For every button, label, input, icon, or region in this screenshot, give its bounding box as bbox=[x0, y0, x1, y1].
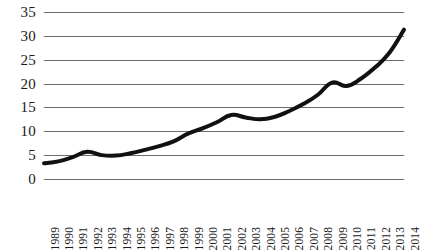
x-axis-tick-label: 2002 bbox=[237, 227, 249, 250]
x-axis-tick-label: 1998 bbox=[179, 227, 191, 250]
x-axis-tick-label: 2010 bbox=[352, 227, 364, 250]
x-axis-tick-label: 2011 bbox=[366, 227, 378, 250]
x-axis-tick-label: 2004 bbox=[266, 227, 278, 250]
y-axis-tick-label: 25 bbox=[0, 52, 36, 67]
x-axis-tick-label: 2012 bbox=[381, 227, 393, 250]
x-axis-baseline bbox=[44, 179, 404, 180]
y-axis-tick-label: 10 bbox=[0, 124, 36, 139]
x-axis-tick-label: 2006 bbox=[294, 227, 306, 250]
x-axis-tick-label: 1996 bbox=[150, 227, 162, 250]
x-axis-tick-label: 1994 bbox=[122, 227, 134, 250]
x-axis-tick-label: 2003 bbox=[251, 227, 263, 250]
x-axis-tick-label: 2007 bbox=[309, 227, 321, 250]
x-axis-tick-label: 2005 bbox=[280, 227, 292, 250]
x-axis-tick-label: 1993 bbox=[107, 227, 119, 250]
x-axis-tick-label: 2013 bbox=[395, 227, 407, 250]
x-axis-tick-label: 1991 bbox=[78, 227, 90, 250]
y-axis-tick-label: 5 bbox=[0, 148, 36, 163]
x-axis-tick-label: 2000 bbox=[208, 227, 220, 250]
x-axis-tick-label: 1989 bbox=[50, 227, 62, 250]
x-axis-tick-label: 1995 bbox=[136, 227, 148, 250]
x-axis-tick-label: 2014 bbox=[410, 227, 421, 250]
x-axis-tick-label: 2008 bbox=[323, 227, 335, 250]
x-axis-tick-label: 2001 bbox=[222, 227, 234, 250]
x-axis-tick-label: 1992 bbox=[93, 227, 105, 250]
x-axis-tick-label: 1999 bbox=[194, 227, 206, 250]
y-axis: 05101520253035 bbox=[0, 0, 42, 233]
y-axis-tick-label: 30 bbox=[0, 28, 36, 43]
series-path bbox=[44, 30, 404, 164]
plot-area bbox=[44, 12, 404, 179]
y-axis-tick-label: 35 bbox=[0, 5, 36, 20]
y-axis-tick-label: 20 bbox=[0, 76, 36, 91]
x-axis-tick-label: 2009 bbox=[338, 227, 350, 250]
data-series-line bbox=[44, 12, 404, 179]
y-axis-tick-label: 0 bbox=[0, 172, 36, 187]
y-axis-tick-label: 15 bbox=[0, 100, 36, 115]
x-axis-tick-label: 1997 bbox=[165, 227, 177, 250]
x-axis-tick-label: 1990 bbox=[64, 227, 76, 250]
x-axis: 1989199019911992199319941995199619971998… bbox=[44, 181, 404, 233]
